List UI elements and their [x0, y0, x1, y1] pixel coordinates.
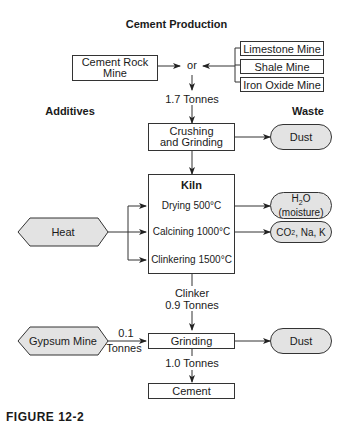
- crushing-grinding-box: Crushing and Grinding: [148, 123, 235, 151]
- clinker-flow-label: 0.9 Tonnes: [157, 299, 227, 311]
- iron-oxide-mine-box: Iron Oxide Mine: [240, 77, 324, 92]
- shale-mine-box: Shale Mine: [240, 59, 324, 74]
- cement-box: Cement: [148, 383, 235, 399]
- waste-heading: Waste: [286, 105, 330, 117]
- gypsum-unit: Tonnes: [106, 342, 142, 354]
- co2-na-k-waste: CO2, Na, K: [270, 221, 332, 243]
- cement-rock-mine-box: Cement Rock Mine: [72, 55, 158, 81]
- additives-heading: Additives: [40, 105, 100, 117]
- heat-label: Heat: [18, 218, 108, 246]
- h2o-note: (moisture): [278, 208, 323, 218]
- h2o-waste: H2O (moisture): [270, 192, 332, 219]
- diagram-title: Cement Production: [0, 18, 353, 30]
- dust-waste-1: Dust: [270, 124, 332, 150]
- gypsum-amount: 0.1: [112, 327, 140, 339]
- gypsum-mine-label: Gypsum Mine: [18, 327, 108, 355]
- raw-flow-label: 1.7 Tonnes: [162, 93, 222, 105]
- figure-caption: FIGURE 12-2: [6, 410, 84, 424]
- drying-stage: Drying 500°C: [150, 200, 233, 211]
- grinding-box: Grinding: [148, 333, 235, 349]
- dust-waste-2: Dust: [270, 328, 332, 354]
- or-label: or: [184, 59, 200, 71]
- clinker-label: Clinker: [162, 287, 222, 299]
- final-flow-label: 1.0 Tonnes: [157, 357, 227, 369]
- limestone-mine-box: Limestone Mine: [240, 41, 324, 56]
- calcining-stage: Calcining 1000°C: [150, 226, 233, 237]
- h2o-formula: H2O: [292, 194, 311, 208]
- clinkering-stage: Clinkering 1500°C: [150, 254, 233, 265]
- kiln-label: Kiln: [181, 179, 202, 191]
